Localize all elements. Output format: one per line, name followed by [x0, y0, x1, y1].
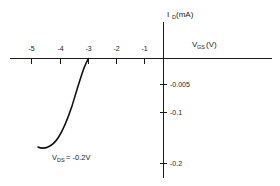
x-axis-title-unit: (V) [206, 40, 217, 49]
chart-background [0, 0, 280, 186]
annotation-subscript: DS [57, 157, 65, 163]
x-axis-title-subscript: GS [197, 44, 205, 50]
x-tick-label: -5 [28, 45, 34, 52]
y-axis-title-main: I [167, 10, 169, 19]
y-axis-title-unit: (mA) [176, 10, 194, 19]
x-tick-label: -1 [141, 45, 147, 52]
y-tick-label: -0.2 [170, 160, 182, 167]
chart-figure: -5 -4 -3 -2 -1 -0.005 -0.1 -0.2 I D (mA)… [0, 0, 280, 186]
x-tick-label: -3 [85, 45, 91, 52]
annotation-value: = -0.2V [66, 153, 90, 162]
x-tick-label: -2 [113, 45, 119, 52]
x-tick-label: -4 [57, 45, 63, 52]
chart-svg: -5 -4 -3 -2 -1 -0.005 -0.1 -0.2 I D (mA)… [0, 0, 280, 186]
y-tick-label: -0.1 [170, 109, 182, 116]
y-tick-label: -0.005 [170, 81, 190, 88]
